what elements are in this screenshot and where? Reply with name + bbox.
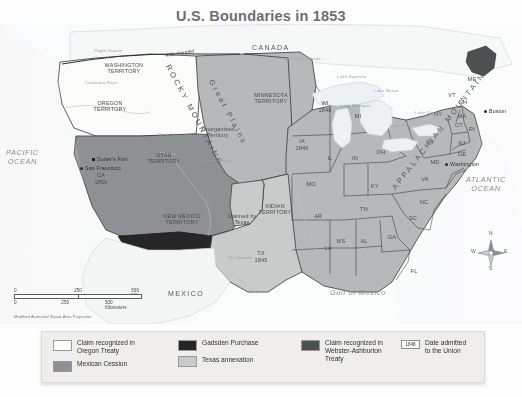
legend-label: Date admittedto the Union	[425, 339, 466, 355]
state-label-mo: MO	[306, 181, 315, 188]
map-label-layer: CANADAMEXICOPACIFICOCEANATLANTICOCEANGul…	[0, 24, 522, 324]
state-label-mi: MI	[355, 113, 362, 120]
state-label-ky: KY	[371, 183, 379, 190]
legend-swatch	[178, 356, 197, 367]
state-label-wi: WI1848	[318, 100, 331, 113]
water-label-colorado-river: Colorado River	[200, 158, 232, 163]
city-marker-san-francisco	[80, 167, 83, 170]
state-label-tx: TX1845	[254, 250, 267, 263]
state-label-ca: CA1850	[94, 172, 107, 185]
legend-swatch	[53, 361, 72, 372]
state-label-fl: FL	[411, 268, 418, 275]
state-label-ma: MA	[458, 113, 467, 120]
water-label-lake-of-the-woods: Lake of the Woods	[281, 56, 321, 61]
scale-km-mid: 250	[61, 300, 69, 305]
legend-item-date-admitted: 1848Date admittedto the Union	[401, 339, 487, 355]
state-label-tn: TN	[360, 206, 368, 213]
scale-km-zero: 0	[14, 300, 17, 305]
water-label-columbia-river: Columbia River	[85, 80, 118, 85]
territory-label-oregon-territory: OREGONTERRITORY	[94, 100, 127, 113]
state-label-ga: GA	[388, 234, 396, 241]
water-label-lake-erie: Lake Erie	[390, 123, 410, 128]
map-page: U.S. Boundaries in 1853	[0, 0, 522, 397]
city-marker-washington	[445, 163, 448, 166]
territory-label-claimed-by-texas: Claimed byTexas	[228, 213, 257, 226]
legend-swatch	[53, 340, 72, 351]
legend-swatch	[178, 340, 197, 351]
map-canvas: N S E W CANADAMEXICOPACIFICOCEANATLANTIC…	[0, 24, 522, 324]
state-label-ia: IA1846	[295, 138, 308, 151]
state-label-ar: AR	[314, 213, 322, 220]
legend-item-mexican-cession: Mexican Cession	[53, 360, 171, 372]
ocean-label-pacific: PACIFICOCEAN	[6, 148, 39, 166]
state-label-sc: SC	[409, 215, 417, 222]
state-label-in: IN	[352, 155, 358, 162]
state-label-la: LA	[324, 245, 331, 252]
water-label-lake-superior: Lake Superior	[337, 74, 367, 79]
legend-label: Texas annexation	[202, 356, 253, 364]
scale-bar: 0 250 500 Miles 0 250 500 Kilometers	[14, 288, 142, 307]
state-label-va: VA	[421, 176, 428, 183]
country-label-mexico: MEXICO	[168, 290, 204, 297]
territory-label-new-mexico-territory: NEW MEXICOTERRITORY	[163, 213, 200, 226]
legend-label: Gadsden Purchase	[202, 339, 258, 347]
water-label-great-salt-lake: Great Salt Lake	[158, 132, 192, 137]
page-title: U.S. Boundaries in 1853	[0, 8, 522, 24]
water-label-lake-huron: Lake Huron	[374, 88, 399, 93]
territory-label-washington-territory: WASHINGTONTERRITORY	[105, 62, 144, 75]
city-marker-sutter-s-fort	[92, 158, 95, 161]
water-label-puget-sound: Puget Sound	[94, 48, 122, 53]
state-label-vt: VT	[448, 92, 456, 99]
city-label-boston: Boston	[489, 108, 506, 114]
legend-label: Claim recognized inOregon Treaty	[77, 339, 135, 355]
scale-miles-zero: 0	[14, 288, 17, 293]
territory-label-minnesota-territory: MINNESOTATERRITORY	[254, 92, 287, 105]
map-legend: Claim recognized inOregon TreatyMexican …	[41, 331, 485, 383]
legend-item-gadsden-purchase: Gadsden Purchase	[178, 339, 294, 351]
ocean-label-gulf-of-mexico: Gulf of Mexico	[330, 288, 386, 297]
legend-date-badge: 1848	[401, 340, 420, 349]
ocean-label-atlantic: ATLANTICOCEAN	[466, 175, 506, 193]
water-label-rio-grande: Rio Grande	[228, 255, 252, 260]
legend-label: Claim recognized inWebster-AshburtonTrea…	[325, 339, 383, 364]
legend-swatch	[301, 340, 320, 351]
legend-label: Mexican Cession	[77, 360, 127, 368]
state-label-nc: NC	[420, 199, 428, 206]
city-label-sutter-s-fort: Sutter's Fort	[97, 156, 128, 162]
legend-item-claim-recognized-in: Claim recognized inWebster-AshburtonTrea…	[301, 339, 397, 364]
state-label-il: IL	[327, 155, 332, 162]
state-label-ms: MS	[337, 238, 346, 245]
water-label-lake-michigan: Lake Michigan	[340, 103, 371, 108]
scale-km-max: 500 Kilometers	[105, 300, 127, 310]
city-label-san-francisco: San Francisco	[85, 165, 121, 171]
territory-label-utah-territory: UTAHTERRITORY	[148, 152, 181, 165]
territory-label-indian-territory: INDIANTERRITORY	[259, 203, 292, 216]
state-label-de: DE	[458, 151, 466, 158]
state-label-ri: RI	[469, 126, 475, 133]
legend-item-claim-recognized-in: Claim recognized inOregon Treaty	[53, 339, 171, 355]
country-label-canada: CANADA	[252, 44, 290, 51]
boundary-label--th-parallel: 49th Parallel	[165, 48, 195, 58]
state-label-oh: OH	[377, 149, 386, 156]
state-label-md: MD	[430, 159, 439, 166]
state-label-ct: CT	[455, 122, 463, 129]
state-label-al: AL	[360, 238, 367, 245]
city-marker-boston	[484, 110, 487, 113]
legend-item-texas-annexation: Texas annexation	[178, 356, 294, 368]
city-label-washington: Washington	[450, 161, 479, 167]
projection-note: Modified Azimuthal Equal-Area Projection	[14, 314, 92, 319]
state-label-nj: NJ	[458, 140, 465, 147]
water-label-lake-ontario: Lake Ontario	[415, 110, 443, 115]
scale-miles-mid: 250	[74, 288, 82, 293]
scale-bar-graphic	[14, 294, 142, 299]
